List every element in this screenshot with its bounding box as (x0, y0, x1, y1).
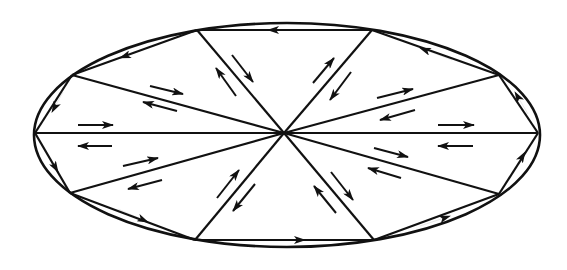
polygon-edge (35, 133, 70, 193)
spoke-arrow-out-icon (217, 170, 239, 198)
spoke-top-left (197, 30, 284, 133)
spoke-arrow-out-icon (150, 86, 183, 94)
edge-arrow-icon (512, 152, 525, 174)
spoke-arrow-out-icon (123, 158, 158, 166)
spoke-lower-left (70, 133, 284, 193)
polygon-edge (374, 194, 499, 240)
spoke-bottom-left (195, 133, 284, 240)
spoke-arrow-in-icon (368, 168, 401, 178)
polygon-edge (372, 30, 499, 75)
polygon-edge (70, 193, 195, 240)
polygon-edge (72, 30, 197, 75)
spoke-arrow-out-icon (232, 55, 253, 82)
edge-arrow-icon (420, 48, 452, 60)
spoke-arrow-out-icon (374, 148, 408, 157)
spoke-arrow-out-icon (331, 172, 353, 200)
spoke-top-right (284, 30, 372, 133)
spoke-arrow-out-icon (377, 89, 413, 98)
spoke-lower-right (284, 133, 499, 194)
spoke-bottom-right (284, 133, 374, 240)
spoke-arrow-in-icon (128, 180, 162, 189)
ellipse-flow-diagram (0, 0, 567, 270)
polygon-edge (499, 75, 538, 133)
spoke-arrow-in-icon (380, 110, 415, 120)
polygon-edge (35, 75, 72, 133)
spoke-arrow-in-icon (233, 184, 255, 211)
